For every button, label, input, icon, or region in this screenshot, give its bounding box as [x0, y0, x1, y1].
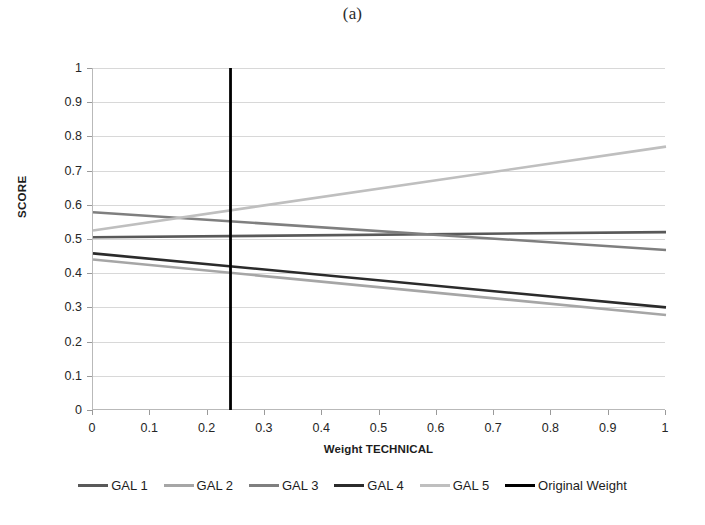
x-axis-tick-label: 0.5 [357, 422, 401, 435]
legend-swatch-icon [164, 484, 194, 487]
legend-item-gal-4[interactable]: GAL 4 [334, 478, 403, 493]
x-axis-tick-label: 0 [70, 422, 114, 435]
x-axis-tick-label: 0.2 [185, 422, 229, 435]
y-axis-tick-label: 0 [22, 404, 82, 417]
legend-label: GAL 5 [453, 478, 489, 493]
x-axis-tick-label: 0.8 [528, 422, 572, 435]
x-axis-tick-mark [264, 410, 265, 415]
y-axis-tick-label: 0.2 [22, 336, 82, 349]
y-axis-tick-label: 0.7 [22, 165, 82, 178]
legend-label: GAL 3 [282, 478, 318, 493]
plot-area [92, 68, 665, 410]
y-axis-tick-label: 0.4 [22, 267, 82, 280]
x-axis-tick-label: 0.6 [414, 422, 458, 435]
legend-label: GAL 2 [197, 478, 233, 493]
y-axis-tick-label: 0.6 [22, 199, 82, 212]
series-line-gal-5 [93, 147, 666, 231]
legend-label: GAL 1 [111, 478, 147, 493]
x-axis-tick-mark [608, 410, 609, 415]
x-axis-title: Weight TECHNICAL [92, 443, 665, 455]
y-axis-tick-label: 0.8 [22, 130, 82, 143]
x-axis-tick-mark [493, 410, 494, 415]
y-axis-tick-label: 0.5 [22, 233, 82, 246]
x-axis-tick-label: 0.3 [242, 422, 286, 435]
x-axis-tick-mark [207, 410, 208, 415]
x-axis-tick-label: 0.9 [586, 422, 630, 435]
y-axis-tick-label: 1 [22, 62, 82, 75]
x-axis-tick-label: 1 [643, 422, 687, 435]
legend-item-original-weight[interactable]: Original Weight [505, 478, 627, 493]
legend-swatch-icon [420, 484, 450, 487]
x-axis-tick-label: 0.1 [127, 422, 171, 435]
legend-swatch-icon [505, 484, 535, 487]
x-axis-tick-label: 0.7 [471, 422, 515, 435]
series-line-gal-1 [93, 232, 666, 237]
y-axis-tick-label: 0.9 [22, 96, 82, 109]
y-axis-title: SCORE [16, 176, 28, 218]
legend-swatch-icon [334, 484, 364, 487]
x-axis-tick-label: 0.4 [299, 422, 343, 435]
legend-item-gal-2[interactable]: GAL 2 [164, 478, 233, 493]
legend-item-gal-3[interactable]: GAL 3 [249, 478, 318, 493]
legend-label: Original Weight [538, 478, 627, 493]
y-axis-tick-label: 0.1 [22, 370, 82, 383]
x-axis-tick-mark [436, 410, 437, 415]
legend-swatch-icon [78, 484, 108, 487]
series-layer [93, 68, 666, 410]
x-axis-tick-mark [550, 410, 551, 415]
legend-label: GAL 4 [367, 478, 403, 493]
series-line-gal-4 [93, 253, 666, 307]
x-axis-tick-mark [379, 410, 380, 415]
chart-legend: GAL 1GAL 2GAL 3GAL 4GAL 5Original Weight [0, 478, 705, 493]
series-line-gal-2 [93, 260, 666, 315]
line-chart: SCORE 00.10.20.30.40.50.60.70.80.91 00.1… [0, 0, 705, 525]
y-axis-tick-label: 0.3 [22, 301, 82, 314]
legend-item-gal-1[interactable]: GAL 1 [78, 478, 147, 493]
x-axis-tick-mark [665, 410, 666, 415]
legend-swatch-icon [249, 484, 279, 487]
x-axis-tick-mark [321, 410, 322, 415]
legend-item-gal-5[interactable]: GAL 5 [420, 478, 489, 493]
x-axis-tick-mark [92, 410, 93, 415]
x-axis-tick-mark [149, 410, 150, 415]
